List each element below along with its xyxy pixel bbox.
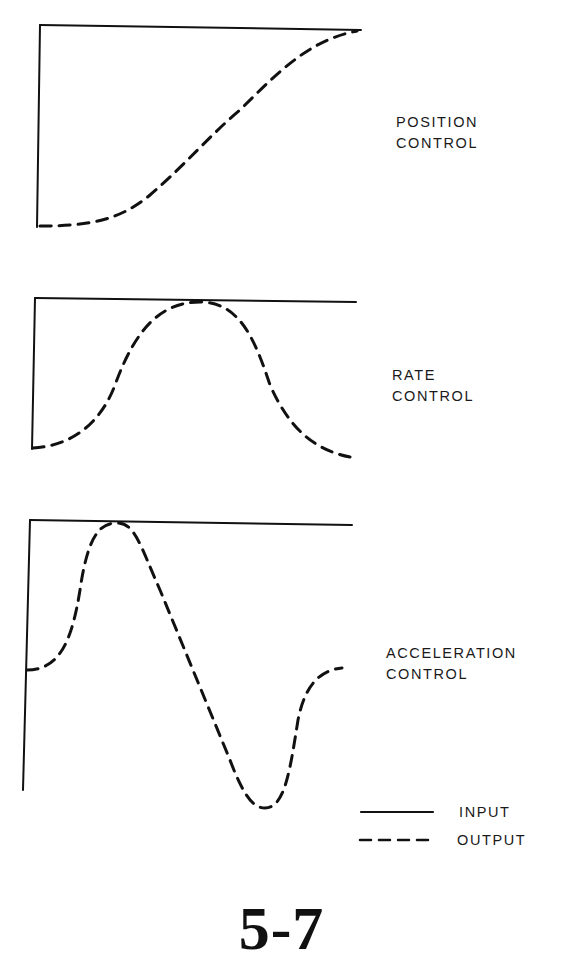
acceleration-control-panel xyxy=(23,520,352,808)
acceleration-input-line xyxy=(30,520,352,525)
acceleration-label-line1: ACCELERATION xyxy=(386,645,517,661)
legend-output-label: OUTPUT xyxy=(457,830,526,851)
rate-control-panel xyxy=(32,298,356,457)
acceleration-output-curve xyxy=(27,523,342,808)
position-control-label: POSITION CONTROL xyxy=(396,112,478,154)
rate-axis xyxy=(32,298,35,449)
acceleration-axis xyxy=(23,520,30,790)
rate-output-curve xyxy=(33,302,350,457)
rate-label-line1: RATE xyxy=(392,367,436,383)
position-control-panel xyxy=(37,25,361,227)
rate-label-line2: CONTROL xyxy=(392,388,474,404)
legend-input-label: INPUT xyxy=(459,802,511,823)
rate-control-label: RATE CONTROL xyxy=(392,365,474,407)
position-label-line2: CONTROL xyxy=(396,135,478,151)
legend xyxy=(360,812,433,840)
figure-number: 5-7 xyxy=(0,893,563,964)
position-input-line xyxy=(40,25,361,30)
acceleration-control-label: ACCELERATION CONTROL xyxy=(386,643,517,685)
position-axis xyxy=(37,25,40,227)
position-label-line1: POSITION xyxy=(396,114,478,130)
position-output-curve xyxy=(40,31,357,226)
acceleration-label-line2: CONTROL xyxy=(386,666,468,682)
